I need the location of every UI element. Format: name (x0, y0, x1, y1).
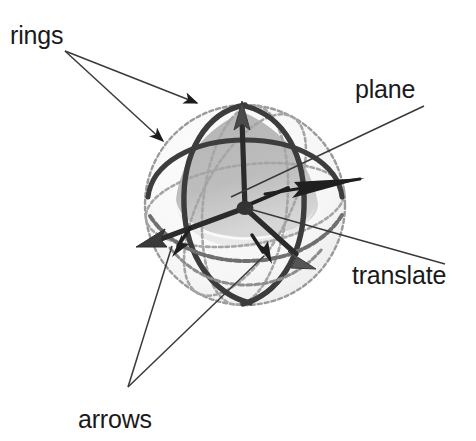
leader-rings-a (65, 51, 197, 103)
center-hub (237, 201, 254, 215)
leader-rings-b (65, 51, 163, 141)
label-arrows: arrows (78, 405, 152, 433)
axis-shaft-up (242, 120, 245, 208)
gizmo-diagram: rings plane translate arrows (0, 0, 476, 441)
label-rings: rings (10, 21, 63, 49)
label-plane: plane (355, 75, 415, 103)
diagram-canvas: rings plane translate arrows (0, 0, 476, 441)
label-translate: translate (352, 261, 446, 289)
